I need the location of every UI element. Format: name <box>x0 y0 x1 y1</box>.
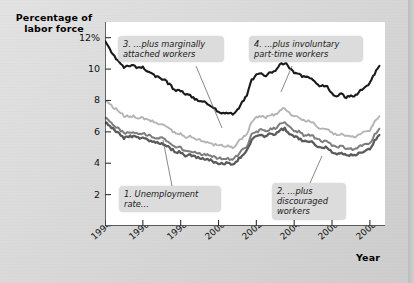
callout-leader-2 <box>310 156 322 183</box>
callout-4-line1: 4. ...plus involuntary <box>254 39 339 49</box>
callout-2-line3: workers <box>277 206 341 216</box>
callout-marginally-attached: 3. ...plus marginally attached workers <box>118 36 224 62</box>
callout-discouraged-workers: 2. ...plus discouraged workers <box>272 183 346 220</box>
callout-1-line2: rate... <box>124 199 216 209</box>
series-line-1 <box>105 122 379 164</box>
callout-2-line1: 2. ...plus <box>277 186 313 196</box>
callout-leader-4 <box>281 66 292 92</box>
figure-container: Percentage of labor force 24681012% 1994… <box>0 0 414 283</box>
series-line-3 <box>105 101 379 148</box>
callout-leader-3 <box>196 66 222 128</box>
callout-unemployment-rate: 1. Unemployment rate... <box>119 186 221 212</box>
callout-4-line2: part-time workers <box>254 49 358 59</box>
x-axis-title: Year <box>356 252 402 263</box>
callout-involuntary-part-time: 4. ...plus involuntary part-time workers <box>249 36 363 62</box>
callout-2-line2: discouraged <box>277 196 341 206</box>
callout-3-line1: 3. ...plus marginally <box>123 39 205 49</box>
callout-3-line2: attached workers <box>123 49 219 59</box>
callout-1-line1: 1. Unemployment <box>124 189 198 199</box>
